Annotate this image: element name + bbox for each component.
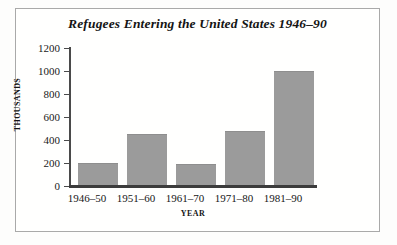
x-axis-title: YEAR — [69, 209, 317, 218]
y-tick-label: 0 — [14, 181, 60, 192]
bar — [78, 163, 118, 186]
bar — [225, 131, 265, 186]
x-axis-line — [69, 185, 317, 188]
bar — [274, 71, 314, 186]
bar — [127, 134, 167, 186]
y-tick-label: 600 — [14, 112, 60, 123]
chart-title: Refugees Entering the United States 1946… — [15, 16, 380, 32]
y-tick-label: 400 — [14, 135, 60, 146]
y-tick-label: 800 — [14, 89, 60, 100]
y-tick-label: 200 — [14, 158, 60, 169]
y-tick-label: 1000 — [14, 66, 60, 77]
y-tick-label: 1200 — [14, 43, 60, 54]
y-axis-tick-labels: 1200 1000 800 600 400 200 0 — [14, 0, 60, 245]
chart-page: Refugees Entering the United States 1946… — [0, 0, 397, 245]
plot-area — [70, 48, 315, 186]
bar — [176, 164, 216, 186]
x-tick-label: 1981–90 — [250, 192, 316, 204]
